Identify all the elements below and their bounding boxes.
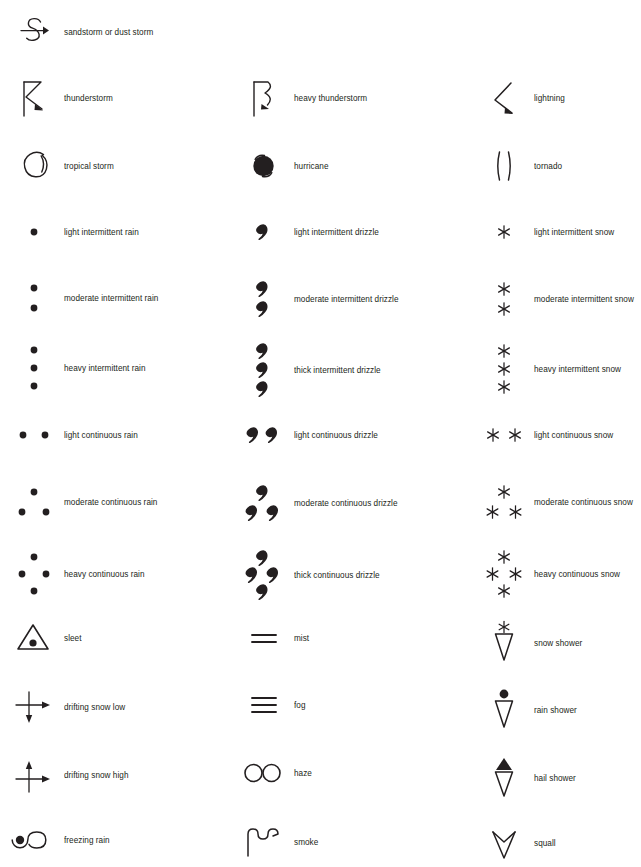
legend-entry-label: light continuous rain — [64, 430, 138, 441]
legend-entry-freezing-rain: freezing rain — [8, 820, 115, 860]
legend-entry-label: heavy continuous snow — [534, 569, 620, 580]
legend-entry-label: moderate intermittent rain — [64, 293, 158, 304]
drizzle-3-comma-vertical-icon — [238, 340, 290, 400]
drizzle-3-comma-triangle-icon — [238, 478, 290, 528]
legend-entry-label: light intermittent snow — [534, 227, 614, 238]
legend-entry-drifting-snow-low: drifting snow low — [8, 685, 132, 729]
legend-entry-label: fog — [294, 700, 306, 711]
hurricane-icon — [238, 144, 290, 188]
squall-icon — [478, 820, 530, 866]
legend-entry-fog: fog — [238, 685, 307, 725]
drifting-snow-high-icon — [8, 753, 60, 797]
heavy-thunderstorm-icon — [238, 76, 290, 120]
snow-3-star-triangle-icon — [478, 478, 530, 526]
legend-entry-tornado: tornado — [478, 144, 565, 188]
legend-entry-smoke: smoke — [238, 820, 321, 864]
legend-entry-mist: mist — [238, 618, 311, 658]
legend-entry-label: squall — [534, 838, 556, 849]
mist-icon — [238, 618, 290, 658]
legend-entry-squall: squall — [478, 820, 558, 866]
legend-entry-moderate-intermittent-drizzle: moderate intermittent drizzle — [238, 276, 410, 322]
legend-entry-heavy-intermittent-rain: heavy intermittent rain — [8, 340, 155, 396]
legend-entry-label: light intermittent rain — [64, 227, 139, 238]
legend-entry-heavy-continuous-snow: heavy continuous snow — [478, 546, 630, 602]
legend-entry-label: heavy intermittent snow — [534, 364, 621, 375]
legend-entry-moderate-continuous-rain: moderate continuous rain — [8, 478, 168, 526]
legend-entry-moderate-continuous-snow: moderate continuous snow — [478, 478, 641, 526]
thunderstorm-icon — [8, 76, 60, 120]
snow-2-star-vertical-icon — [478, 276, 530, 322]
rain-1-dot-icon — [8, 212, 60, 252]
tropical-storm-icon — [8, 144, 60, 188]
legend-entry-haze: haze — [238, 753, 314, 793]
legend-entry-label: moderate intermittent drizzle — [294, 294, 399, 305]
legend-entry-label: thunderstorm — [64, 93, 113, 104]
legend-entry-moderate-intermittent-snow: moderate intermittent snow — [478, 276, 641, 322]
legend-entry-label: snow shower — [534, 638, 582, 649]
legend-entry-label: hurricane — [294, 161, 329, 172]
snow-4-star-diamond-icon — [478, 546, 530, 602]
legend-entry-light-intermittent-snow: light intermittent snow — [478, 212, 623, 252]
legend-entry-label: smoke — [294, 837, 318, 848]
rain-3-dot-triangle-icon — [8, 478, 60, 526]
legend-entry-label: moderate intermittent snow — [534, 294, 634, 305]
legend-entry-sleet: sleet — [8, 618, 83, 658]
legend-entry-lightning: lightning — [478, 76, 568, 120]
legend-entry-heavy-intermittent-snow: heavy intermittent snow — [478, 340, 631, 398]
tornado-icon — [478, 144, 530, 188]
haze-icon — [238, 753, 290, 793]
legend-entry-label: freezing rain — [64, 835, 110, 846]
legend-entry-label: tornado — [534, 161, 562, 172]
freezing-rain-icon — [8, 820, 60, 860]
rain-3-dot-vertical-icon — [8, 340, 60, 396]
drizzle-4-comma-diamond-icon — [238, 546, 290, 604]
legend-entry-label: heavy intermittent rain — [64, 363, 146, 374]
rain-2-dot-horizontal-icon — [8, 415, 60, 455]
legend-entry-heavy-continuous-rain: heavy continuous rain — [8, 546, 154, 602]
legend-entry-light-continuous-drizzle: light continuous drizzle — [238, 415, 387, 455]
snow-1-star-icon — [478, 212, 530, 252]
legend-entry-moderate-continuous-drizzle: moderate continuous drizzle — [238, 478, 409, 528]
legend-entry-label: thick intermittent drizzle — [294, 365, 381, 376]
legend-entry-label: tropical storm — [64, 161, 114, 172]
legend-entry-light-continuous-snow: light continuous snow — [478, 415, 622, 455]
legend-entry-heavy-thunderstorm: heavy thunderstorm — [238, 76, 375, 120]
legend-entry-hurricane: hurricane — [238, 144, 332, 188]
legend-entry-label: moderate continuous snow — [534, 497, 633, 508]
drizzle-2-comma-vertical-icon — [238, 276, 290, 322]
legend-entry-moderate-intermittent-rain: moderate intermittent rain — [8, 276, 169, 320]
legend-entry-label: light continuous drizzle — [294, 430, 378, 441]
legend-entry-thick-intermittent-drizzle: thick intermittent drizzle — [238, 340, 390, 400]
legend-entry-label: sleet — [64, 633, 82, 644]
sandstorm-icon — [8, 12, 60, 52]
weather-symbol-legend: sandstorm or dust stormthunderstormheavy… — [0, 0, 641, 867]
sleet-icon — [8, 618, 60, 658]
snow-shower-icon — [478, 618, 530, 668]
legend-entry-hail-shower: hail shower — [478, 753, 581, 803]
lightning-icon — [478, 76, 530, 120]
legend-entry-label: heavy continuous rain — [64, 569, 145, 580]
hail-shower-icon — [478, 753, 530, 803]
legend-entry-label: lightning — [534, 93, 565, 104]
legend-entry-thick-continuous-drizzle: thick continuous drizzle — [238, 546, 389, 604]
legend-entry-label: heavy thunderstorm — [294, 93, 367, 104]
rain-4-dot-diamond-icon — [8, 546, 60, 602]
rain-2-dot-vertical-icon — [8, 276, 60, 320]
legend-entry-label: moderate continuous drizzle — [294, 498, 398, 509]
legend-entry-light-intermittent-drizzle: light intermittent drizzle — [238, 212, 388, 252]
legend-entry-sandstorm: sandstorm or dust storm — [8, 12, 163, 52]
snow-3-star-vertical-icon — [478, 340, 530, 398]
legend-entry-label: sandstorm or dust storm — [64, 27, 153, 38]
drizzle-1-comma-icon — [238, 212, 290, 252]
legend-entry-drifting-snow-high: drifting snow high — [8, 753, 136, 797]
drifting-snow-low-icon — [8, 685, 60, 729]
legend-entry-label: haze — [294, 768, 312, 779]
legend-entry-snow-shower: snow shower — [478, 618, 588, 668]
legend-entry-label: moderate continuous rain — [64, 497, 157, 508]
legend-entry-label: drifting snow high — [64, 770, 129, 781]
legend-entry-label: mist — [294, 633, 309, 644]
rain-shower-icon — [478, 685, 530, 735]
drizzle-2-comma-horizontal-icon — [238, 415, 290, 455]
smoke-icon — [238, 820, 290, 864]
legend-entry-light-continuous-rain: light continuous rain — [8, 415, 146, 455]
